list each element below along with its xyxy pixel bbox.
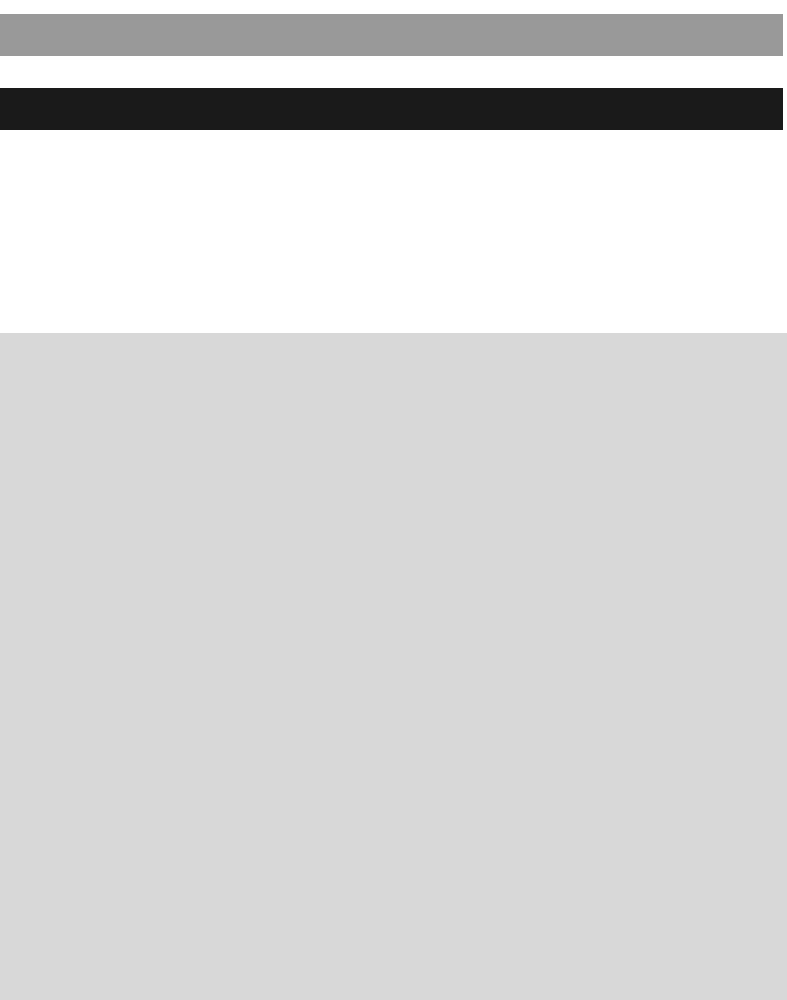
banner-strip-label [0,14,783,56]
top-spacer [0,0,787,14]
page-canvas [0,0,787,1000]
header-strip [0,88,783,130]
header-strip-label [0,88,783,130]
banner-strip [0,14,783,56]
gap-spacer [0,56,787,88]
body-spacer [0,130,787,333]
content-panel [0,333,787,1000]
